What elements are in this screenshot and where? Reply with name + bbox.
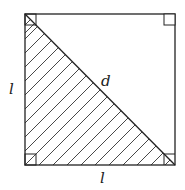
diagonal-label: d xyxy=(101,72,111,90)
right-angle-top-right xyxy=(164,14,175,25)
square-diagonal-diagram: l l d xyxy=(0,0,185,190)
bottom-side-label: l xyxy=(100,169,105,187)
left-side-label: l xyxy=(9,80,14,98)
hatched-triangle xyxy=(0,0,185,190)
